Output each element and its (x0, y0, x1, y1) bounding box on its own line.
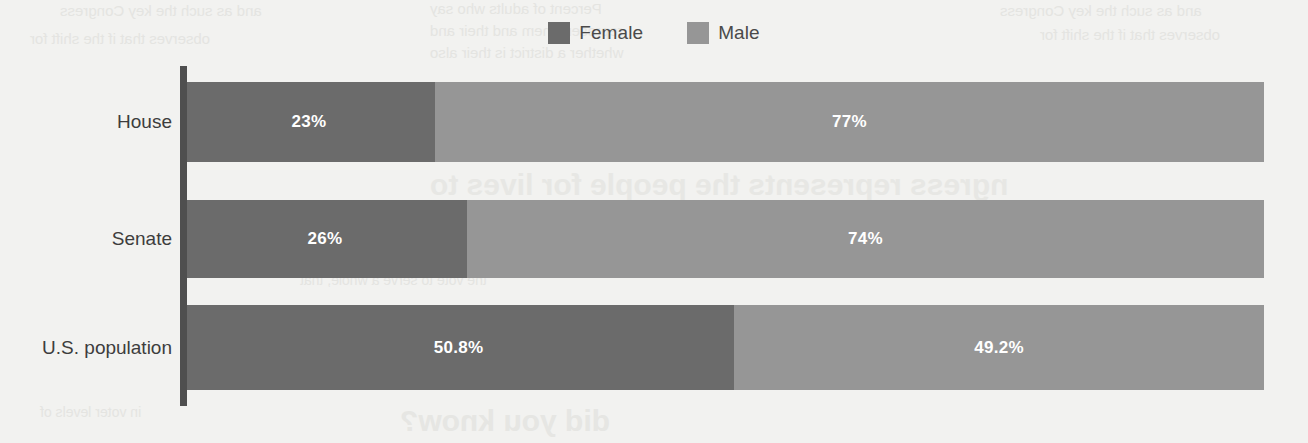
bar-segment-male: 77% (435, 82, 1264, 162)
bar-segment-female: 26% (187, 200, 467, 278)
bar-value-label: 49.2% (734, 338, 1264, 358)
legend-label-male: Male (718, 22, 760, 44)
stacked-bar-chart: Female Male House23%77%Senate26%74%U.S. … (0, 0, 1308, 443)
bar-segment-female: 23% (187, 82, 435, 162)
legend-item-female: Female (548, 22, 643, 44)
stacked-bar: 23%77% (187, 82, 1264, 162)
bar-value-label: 74% (467, 229, 1264, 249)
legend-swatch-male-icon (687, 22, 709, 44)
category-axis-line (180, 66, 187, 406)
bar-value-label: 77% (435, 112, 1264, 132)
bar-segment-male: 74% (467, 200, 1264, 278)
category-label-senate: Senate (112, 228, 172, 250)
chart-legend: Female Male (0, 22, 1308, 44)
bar-segment-male: 49.2% (734, 305, 1264, 390)
stacked-bar: 50.8%49.2% (187, 305, 1264, 390)
bar-value-label: 23% (187, 112, 433, 132)
bar-value-label: 26% (187, 229, 465, 249)
category-label-house: House (117, 111, 172, 133)
bar-segment-female: 50.8% (187, 305, 734, 390)
stacked-bar: 26%74% (187, 200, 1264, 278)
legend-label-female: Female (579, 22, 643, 44)
legend-swatch-female-icon (548, 22, 570, 44)
legend-item-male: Male (687, 22, 760, 44)
category-label-u-s-population: U.S. population (42, 337, 172, 359)
bar-value-label: 50.8% (187, 338, 732, 358)
